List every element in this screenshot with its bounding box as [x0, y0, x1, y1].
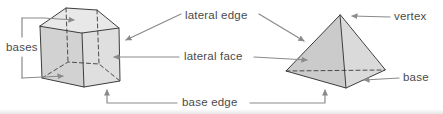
- vertex-arrow: [352, 16, 390, 17]
- label-bases: bases: [6, 41, 38, 54]
- label-lateral-face: lateral face: [184, 50, 243, 63]
- pyramid-left-face: [286, 15, 346, 88]
- label-vertex: vertex: [394, 10, 427, 23]
- base-arrow: [364, 78, 399, 80]
- geometry-diagram: bases lateral edge lateral face base edg…: [0, 0, 443, 114]
- lateral-edge-left-arrow: [126, 14, 181, 40]
- pyramid-right-face: [340, 15, 385, 88]
- base-edge-right-arrow: [250, 90, 325, 103]
- label-base: base: [403, 71, 429, 84]
- pentagonal-prism-shape: [40, 8, 120, 87]
- lateral-edge-right-arrow: [259, 14, 304, 41]
- label-lateral-edge: lateral edge: [185, 9, 248, 22]
- base-edge-left-arrow: [107, 90, 177, 103]
- pyramid-shape: [286, 15, 385, 88]
- prism-front-left-face: [40, 26, 84, 87]
- label-base-edge: base edge: [182, 96, 238, 109]
